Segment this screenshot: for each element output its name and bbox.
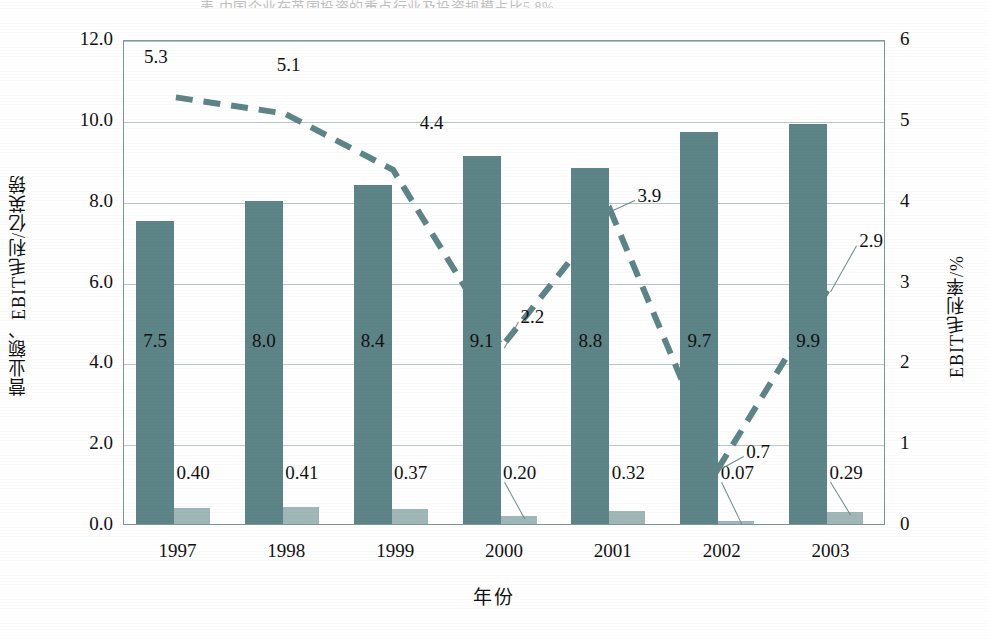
y-axis-left-tick-label: 4.0 bbox=[89, 351, 113, 373]
label-leader-line bbox=[830, 245, 857, 291]
y-axis-left-tick-label: 8.0 bbox=[89, 190, 113, 212]
bar-ebit bbox=[609, 511, 645, 524]
line-value-label: 5.1 bbox=[277, 54, 301, 76]
y-axis-right-tick-label: 4 bbox=[900, 190, 910, 212]
bar-ebit-label: 0.07 bbox=[708, 462, 766, 484]
line-value-label: 5.3 bbox=[144, 46, 168, 68]
gridline bbox=[124, 122, 884, 123]
line-value-label: 4.4 bbox=[420, 112, 444, 134]
gridline bbox=[124, 41, 884, 42]
bar-revenue-label: 9.7 bbox=[674, 330, 724, 352]
chart-figure: 表 中国企业在英国投资的重点行业及投资规模占比5.8%。 营业额、EBIT毛利/… bbox=[0, 0, 988, 639]
bar-ebit-label: 0.37 bbox=[382, 462, 440, 484]
label-leader-line bbox=[830, 482, 851, 515]
y-axis-left-title: 营业额、EBIT毛利/亿英镑 bbox=[6, 175, 32, 396]
x-axis-tick-label: 1998 bbox=[231, 540, 341, 562]
label-leader-line bbox=[613, 200, 635, 211]
bar-ebit bbox=[501, 516, 537, 524]
bar-ebit bbox=[827, 512, 863, 524]
bar-revenue-label: 9.9 bbox=[783, 330, 833, 352]
y-axis-right-tick-label: 6 bbox=[900, 28, 910, 50]
gridline bbox=[124, 203, 884, 204]
x-axis-tick-label: 1999 bbox=[340, 540, 450, 562]
line-value-label: 0.7 bbox=[746, 441, 770, 463]
bar-revenue-label: 7.5 bbox=[130, 330, 180, 352]
y-axis-right-tick-label: 2 bbox=[900, 351, 910, 373]
gridline bbox=[124, 526, 884, 527]
y-axis-right-tick-label: 5 bbox=[900, 109, 910, 131]
line-value-label: 2.9 bbox=[859, 230, 883, 252]
bar-ebit-label: 0.20 bbox=[491, 462, 549, 484]
gridline bbox=[124, 364, 884, 365]
bar-ebit bbox=[174, 508, 210, 524]
label-leader-line bbox=[721, 482, 742, 524]
label-leader-line bbox=[504, 482, 525, 519]
line-value-label: 3.9 bbox=[637, 185, 661, 207]
bar-ebit bbox=[392, 509, 428, 524]
y-axis-left-tick-label: 10.0 bbox=[80, 109, 113, 131]
bar-ebit-label: 0.32 bbox=[599, 462, 657, 484]
x-axis-title: 年份 bbox=[0, 582, 988, 609]
y-axis-left-tick-label: 2.0 bbox=[89, 432, 113, 454]
y-axis-left-tick-label: 12.0 bbox=[80, 28, 113, 50]
x-axis-tick-label: 2000 bbox=[449, 540, 559, 562]
bar-revenue-label: 9.1 bbox=[457, 330, 507, 352]
y-axis-right-tick-label: 3 bbox=[900, 271, 910, 293]
bar-ebit-label: 0.29 bbox=[817, 462, 875, 484]
y-axis-right-tick-label: 0 bbox=[900, 513, 910, 535]
gridline bbox=[124, 284, 884, 285]
x-axis-tick-label: 2002 bbox=[667, 540, 777, 562]
line-value-label: 2.2 bbox=[521, 306, 545, 328]
x-axis-tick-label: 1997 bbox=[122, 540, 232, 562]
bar-ebit bbox=[718, 521, 754, 524]
bar-ebit-label: 0.41 bbox=[273, 462, 331, 484]
bar-revenue-label: 8.4 bbox=[348, 330, 398, 352]
y-axis-right-tick-label: 1 bbox=[900, 432, 910, 454]
cropped-page-header: 表 中国企业在英国投资的重点行业及投资规模占比5.8%。 bbox=[200, 0, 820, 8]
bar-ebit-label: 0.40 bbox=[164, 462, 222, 484]
x-axis-tick-label: 2001 bbox=[558, 540, 668, 562]
y-axis-right-title: EBIT毛利率/% bbox=[944, 255, 970, 378]
bar-revenue-label: 8.0 bbox=[239, 330, 289, 352]
bar-ebit bbox=[283, 507, 319, 524]
y-axis-left-tick-label: 6.0 bbox=[89, 271, 113, 293]
x-axis-tick-label: 2003 bbox=[776, 540, 886, 562]
y-axis-left-tick-label: 0.0 bbox=[89, 513, 113, 535]
bar-revenue-label: 8.8 bbox=[565, 330, 615, 352]
plot-area: 7.50.408.00.418.40.379.10.208.80.329.70.… bbox=[123, 40, 885, 525]
